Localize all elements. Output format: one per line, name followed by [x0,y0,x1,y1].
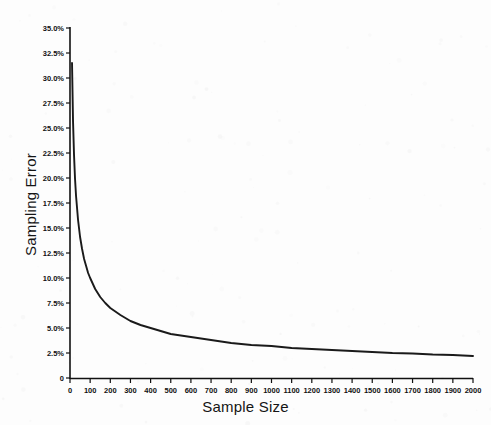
x-axis-tick-label: 1100 [284,386,300,395]
x-axis-tick-label: 600 [185,386,198,395]
y-axis-tick-label: 30.0% [20,74,64,83]
y-axis-tick-label: 35.0% [20,24,64,33]
x-axis-tick-label: 1800 [424,386,441,395]
y-axis-tick-label: 5.0% [20,324,64,333]
x-axis-tick-label: 2000 [465,386,482,395]
sampling-error-line-chart [0,0,491,425]
x-axis-tick-label: 800 [225,386,238,395]
y-axis-tick-label: 0 [20,374,64,383]
x-axis-tick-label: 700 [205,386,218,395]
axes-group [70,27,473,379]
x-axis-tick-label: 1300 [324,386,341,395]
y-axis-tick-label: 32.5% [20,49,64,58]
chart-container: 35.0%32.5%30.0%27.5%25.0%22.5%20.0%17.5%… [0,0,491,425]
x-axis-tick-label: 200 [104,386,117,395]
x-axis-tick-label: 900 [245,386,258,395]
x-axis-tick-label: 1400 [344,386,361,395]
x-axis-tick-label: 100 [84,386,97,395]
y-axis-tick-label: 7.5% [20,299,64,308]
y-axis-title: Sampling Error [22,115,39,295]
x-axis-tick-label: 1600 [384,386,401,395]
x-axis-tick-label: 1200 [303,386,320,395]
x-axis-tick-label: 1000 [263,386,280,395]
x-axis-tick-label: 1900 [445,386,462,395]
x-axis-tick-label: 1700 [404,386,421,395]
x-axis-title: Sample Size [0,398,491,415]
y-axis-tick-label: 27.5% [20,99,64,108]
x-axis-tick-label: 0 [68,386,72,395]
y-axis-tick-label: 2.5% [20,349,64,358]
x-axis-ticks [70,378,473,383]
x-axis-tick-label: 1500 [364,386,381,395]
x-axis-tick-label: 300 [124,386,137,395]
x-axis-tick-label: 500 [164,386,177,395]
x-axis-tick-label: 400 [144,386,157,395]
data-series-line [72,63,473,356]
